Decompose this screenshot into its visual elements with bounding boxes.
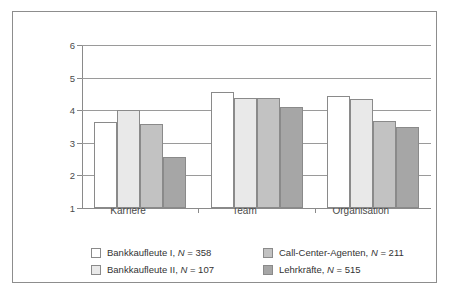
bar (94, 122, 117, 208)
legend-label: Lehrkräfte, N = 515 (279, 264, 361, 275)
legend-n-symbol: N (327, 264, 334, 275)
legend-n-symbol: N (371, 247, 378, 258)
legend-swatch-icon (91, 248, 101, 258)
y-axis-tick-label: 3 (70, 137, 75, 148)
bar (327, 96, 350, 208)
legend-swatch-icon (263, 248, 273, 258)
legend-item[interactable]: Bankkaufleute II, N = 107 (91, 264, 214, 275)
y-axis-tick-label: 4 (70, 105, 75, 116)
x-axis-group-separator (198, 208, 199, 213)
bar (257, 98, 280, 208)
y-axis-tick-label: 2 (70, 170, 75, 181)
bar (117, 110, 140, 208)
bar (211, 92, 234, 208)
bar (163, 157, 186, 208)
gridline (82, 78, 431, 79)
y-axis-line (82, 45, 83, 209)
legend-item[interactable]: Bankkaufleute I, N = 358 (91, 247, 211, 258)
x-axis-group-separator (315, 208, 316, 213)
legend-swatch-icon (263, 265, 273, 275)
bar (350, 99, 373, 208)
legend-swatch-icon (91, 265, 101, 275)
bar (373, 121, 396, 208)
legend-label: Bankkaufleute II, N = 107 (107, 264, 214, 275)
legend-n-symbol: N (180, 264, 187, 275)
chart-frame: 123456 KarriereTeamOrganisation Bankkauf… (12, 11, 437, 283)
legend-n-symbol: N (178, 247, 185, 258)
bar (280, 107, 303, 208)
chart-legend: Bankkaufleute I, N = 358Bankkaufleute II… (91, 247, 421, 281)
bar (396, 127, 419, 209)
chart-figure: 123456 KarriereTeamOrganisation Bankkauf… (0, 0, 449, 298)
y-axis-tick-label: 6 (70, 40, 75, 51)
y-axis-tick-label: 1 (70, 203, 75, 214)
legend-label: Bankkaufleute I, N = 358 (107, 247, 211, 258)
bar (140, 124, 163, 208)
plot-area (82, 45, 431, 208)
legend-label: Call-Center-Agenten, N = 211 (279, 247, 404, 258)
y-axis-tick-label: 5 (70, 72, 75, 83)
gridline (82, 45, 431, 46)
legend-item[interactable]: Lehrkräfte, N = 515 (263, 264, 361, 275)
bar (234, 98, 257, 208)
y-axis-tick-labels: 123456 (53, 45, 75, 209)
legend-item[interactable]: Call-Center-Agenten, N = 211 (263, 247, 404, 258)
